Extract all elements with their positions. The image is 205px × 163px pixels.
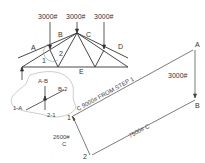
top-chord-left bbox=[18, 33, 77, 58]
arrow-down-icon bbox=[49, 45, 52, 49]
space-c: C bbox=[86, 31, 91, 38]
label-a-b: A-B bbox=[38, 78, 48, 84]
load-label-3: 3000# bbox=[94, 13, 114, 20]
label-1-a: 1-A bbox=[13, 105, 22, 111]
web-3 bbox=[77, 33, 95, 67]
space-a: A bbox=[31, 44, 36, 51]
point-a: A bbox=[195, 41, 200, 48]
web-1 bbox=[50, 50, 58, 67]
space-b: B bbox=[58, 31, 63, 38]
truss-force-diagram: 3000# 3000# 3000# A B C D E 1 2 A-B B-2 … bbox=[0, 0, 205, 163]
load-label-2: 3000# bbox=[66, 13, 86, 20]
one2-force: 2600# bbox=[53, 134, 70, 140]
ab-force: 3000# bbox=[168, 72, 188, 79]
space-1: 1 bbox=[42, 57, 46, 64]
label-b-2: B-2 bbox=[58, 86, 68, 92]
space-2: 2 bbox=[59, 50, 63, 57]
web-4 bbox=[95, 50, 104, 67]
one2-type: C bbox=[62, 141, 67, 147]
space-d: D bbox=[118, 43, 123, 50]
point-2: 2 bbox=[83, 153, 87, 160]
c1-force: C 9000# FROM STEP 1 bbox=[76, 75, 136, 112]
load-arrows bbox=[21, 22, 106, 80]
top-chord-right-inner bbox=[77, 33, 128, 67]
arrow-down-icon bbox=[76, 29, 79, 33]
point-1: 1 bbox=[67, 114, 71, 121]
arrow-up-icon bbox=[21, 67, 24, 71]
load-label-1: 3000# bbox=[38, 13, 58, 20]
b2-force: 7500# C bbox=[128, 123, 151, 139]
arrow-down-icon bbox=[103, 45, 106, 49]
point-b: B bbox=[195, 102, 200, 109]
space-e: E bbox=[79, 68, 84, 75]
label-2-1: 2-1 bbox=[47, 112, 56, 118]
